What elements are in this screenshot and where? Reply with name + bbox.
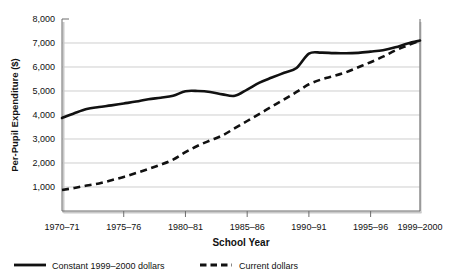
x-tick-label-1970-71: 1970–71	[44, 222, 79, 232]
chart-legend: Constant 1999–2000 dollars Current dolla…	[14, 261, 299, 271]
x-tick-label-1980-81: 1980–81	[168, 222, 203, 232]
legend-label-current-dollars: Current dollars	[239, 261, 299, 271]
x-axis-ticks: 1970–711975–761980–811985–861990–911995–…	[44, 211, 442, 232]
y-tick-label-6000: 6,000	[32, 62, 55, 72]
y-tick-label-8000: 8,000	[32, 14, 55, 24]
y-tick-label-3000: 3,000	[32, 134, 55, 144]
x-tick-label-1985-86: 1985–86	[230, 222, 265, 232]
y-axis-title: Per-Pupil Expenditure ($)	[9, 58, 20, 172]
x-tick-label-1975-76: 1975–76	[106, 222, 141, 232]
y-tick-label-5000: 5,000	[32, 86, 55, 96]
x-tick-label-1995-96: 1995–96	[353, 222, 388, 232]
y-tick-label-2000: 2,000	[32, 158, 55, 168]
legend-label-constant-dollars: Constant 1999–2000 dollars	[52, 261, 165, 271]
y-axis-tick-labels: 1,0002,0003,0004,0005,0006,0007,0008,000	[32, 14, 55, 192]
chart-figure: 1,0002,0003,0004,0005,0006,0007,0008,000…	[0, 0, 452, 277]
y-tick-label-1000: 1,000	[32, 182, 55, 192]
x-tick-label-1990-91: 1990–91	[291, 222, 326, 232]
x-tick-label-1999-2000: 1999–2000	[397, 222, 442, 232]
y-tick-label-7000: 7,000	[32, 38, 55, 48]
y-tick-label-4000: 4,000	[32, 110, 55, 120]
x-axis-title: School Year	[212, 237, 269, 248]
